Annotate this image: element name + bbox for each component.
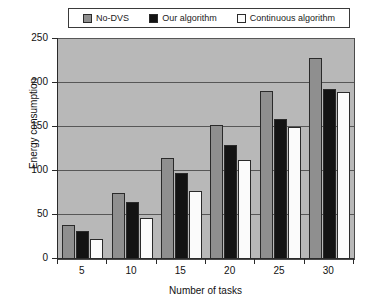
bar-chart-figure: No-DVS Our algorithm Continuous algorith… [0,0,374,307]
y-axis-tick [52,170,58,171]
x-axis-tick-label: 5 [62,266,102,276]
y-axis-tick [52,214,58,215]
x-axis-tick [353,259,354,264]
legend-swatch-no-dvs [83,14,92,23]
x-axis-tick [205,259,206,264]
x-axis-tick-label: 25 [259,266,299,276]
bar [224,145,237,259]
chart-legend: No-DVS Our algorithm Continuous algorith… [68,8,350,28]
x-axis-tick [156,259,157,264]
x-axis-tick-label: 30 [308,266,348,276]
legend-swatch-our-algorithm [149,14,158,23]
bar-group [62,39,103,259]
legend-label-no-dvs: No-DVS [96,14,129,23]
y-axis-tick [52,126,58,127]
bar-group [210,39,251,259]
bar [76,231,89,259]
y-axis-title: Energy consumption [28,34,39,214]
bar [260,91,273,259]
x-axis-tick [106,259,107,264]
plot-area [57,38,355,260]
legend-label-continuous-algorithm: Continuous algorithm [250,14,335,23]
x-axis-tick-label: 15 [160,266,200,276]
bar-group [260,39,301,259]
bar [90,239,103,259]
legend-entry-no-dvs: No-DVS [83,14,129,23]
y-axis-tick [52,38,58,39]
bar [210,125,223,259]
bar [274,119,287,259]
bar [126,202,139,259]
bar [161,158,174,259]
y-axis-tick-label: 0 [8,253,48,263]
legend-entry-continuous-algorithm: Continuous algorithm [237,14,335,23]
bar [337,92,350,259]
legend-entry-our-algorithm: Our algorithm [149,14,217,23]
bar-group [309,39,350,259]
legend-label-our-algorithm: Our algorithm [162,14,217,23]
x-axis-title: Number of tasks [57,285,354,296]
bar [112,193,125,259]
bar-group [161,39,202,259]
bar [189,191,202,259]
bar [288,127,301,259]
bar-group [112,39,153,259]
bar [175,173,188,259]
y-axis-tick [52,82,58,83]
x-axis-tick [304,259,305,264]
legend-swatch-continuous-algorithm [237,14,246,23]
x-axis-tick-label: 20 [210,266,250,276]
bar [323,89,336,259]
bars-layer [58,39,354,259]
x-axis-tick [57,259,58,264]
bar [238,160,251,259]
bar [62,225,75,259]
y-axis-line [57,38,58,259]
x-axis-tick-label: 10 [111,266,151,276]
bar [140,218,153,259]
bar [309,58,322,259]
x-axis-tick [254,259,255,264]
